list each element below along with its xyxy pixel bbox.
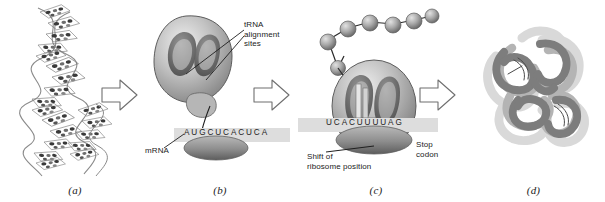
mrna-sequence-c: UCACUUUUAG (326, 118, 404, 127)
panel-d-label: (d) (462, 184, 605, 196)
shift-of-ribosome-position-label: Shift of ribosome position (307, 152, 371, 171)
stop-codon-label: Stop codon (416, 140, 438, 159)
mrna-sequence-b: AUGCUCACUCA (184, 128, 269, 137)
mrna-strand-body (184, 136, 248, 160)
panel-c-label: (c) (290, 184, 462, 196)
arrow-b-to-c (252, 78, 292, 112)
panel-d-folded-protein: (d) (462, 0, 605, 202)
protein-synthesis-figure: (a) (0, 0, 605, 202)
panel-b-label: (b) (140, 184, 300, 196)
arrow-c-to-d (418, 78, 458, 112)
panel-a-label: (a) (0, 184, 150, 196)
folded-protein-graphic (462, 0, 605, 180)
arrow-a-to-b (100, 78, 140, 112)
trna-alignment-sites-label: tRNA alignment sites (244, 20, 280, 49)
mrna-label: mRNA (145, 146, 169, 156)
